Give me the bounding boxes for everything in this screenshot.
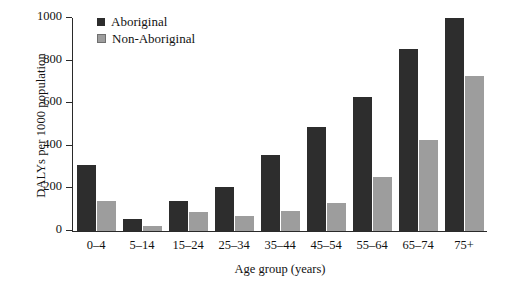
chart-figure: DALYs per 1000 population Aboriginal Non… [0,0,509,293]
bar-group [306,18,347,231]
bar-non-aboriginal [373,177,392,231]
x-axis-line [72,231,487,232]
x-axis-tick-label: 75+ [434,238,494,253]
bar-aboriginal [77,165,96,231]
bar-aboriginal [169,201,188,231]
plot-area: 02004006008001000 0–45–1415–2425–3435–44… [73,18,487,231]
bar-aboriginal [399,49,418,231]
y-axis-tick: 600 [66,102,72,103]
bar-non-aboriginal [419,140,438,231]
bar-aboriginal [215,187,234,231]
bar-group [214,18,255,231]
y-axis-tick-label: 400 [43,137,62,152]
y-axis-tick: 400 [66,145,72,146]
bar-non-aboriginal [327,203,346,231]
bar-aboriginal [353,97,372,231]
bar-series-container [73,18,487,231]
bar-group [260,18,301,231]
y-axis-tick: 0 [66,230,72,231]
bar-aboriginal [261,155,280,231]
bar-non-aboriginal [143,226,162,231]
bar-group [76,18,117,231]
y-axis-tick-label: 600 [43,94,62,109]
y-axis-tick-label: 200 [43,179,62,194]
bar-non-aboriginal [281,211,300,231]
y-axis-tick-label: 800 [43,52,62,67]
bar-group [352,18,393,231]
bar-non-aboriginal [235,216,254,231]
bar-group [168,18,209,231]
y-axis-tick: 200 [66,187,72,188]
y-axis-tick-label: 1000 [37,9,62,24]
bar-aboriginal [123,219,142,231]
x-axis-title: Age group (years) [73,262,487,277]
bar-group [398,18,439,231]
bar-group [122,18,163,231]
bar-non-aboriginal [465,76,484,231]
y-axis-tick-label: 0 [56,222,62,237]
bar-aboriginal [307,127,326,231]
bar-aboriginal [445,18,464,231]
bar-non-aboriginal [97,201,116,231]
y-axis-tick: 1000 [66,17,72,18]
y-axis-tick: 800 [66,60,72,61]
bar-non-aboriginal [189,212,208,231]
bar-group [444,18,485,231]
